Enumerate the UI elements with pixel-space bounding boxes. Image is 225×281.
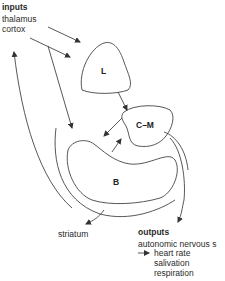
- outputs-heading: outputs: [138, 228, 169, 237]
- node-cm-label: C–M: [136, 120, 154, 130]
- inputs-heading: inputs: [2, 3, 28, 12]
- input-cortox: cortox: [2, 25, 25, 34]
- input-thalamus: thalamus: [2, 15, 37, 24]
- output-respiration: respiration: [154, 269, 194, 278]
- node-l-label: L: [101, 66, 106, 76]
- output-salivation: salivation: [154, 259, 189, 268]
- output-heart-rate: heart rate: [154, 249, 190, 258]
- striatum-label: striatum: [58, 230, 88, 239]
- node-b-label: B: [113, 177, 119, 187]
- node-b-shape: [67, 141, 177, 204]
